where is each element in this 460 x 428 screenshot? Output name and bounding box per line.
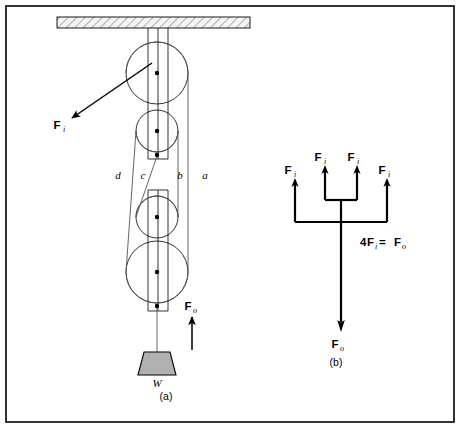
fbd-equation-lhs-subscript: i bbox=[375, 242, 377, 251]
panel-a-caption: (a) bbox=[160, 390, 173, 402]
input-force-symbol: F bbox=[53, 119, 60, 131]
pulley-system-figure: d c b a F i F o W (a) bbox=[0, 0, 460, 428]
hanging-weight bbox=[138, 352, 176, 375]
rope-label-b: b bbox=[177, 169, 183, 181]
fbd-input-force-1-symbol: F bbox=[284, 164, 291, 176]
fbd-input-force-4-symbol: F bbox=[378, 164, 385, 176]
output-force-subscript: o bbox=[193, 306, 197, 315]
fbd-equation-equals: = bbox=[379, 236, 386, 248]
figure-root: d c b a F i F o W (a) bbox=[0, 0, 460, 428]
weight-label: W bbox=[152, 377, 162, 389]
fbd-equation-lhs-symbol: F bbox=[367, 236, 374, 248]
rope-label-c: c bbox=[141, 169, 146, 181]
output-force-symbol: F bbox=[184, 300, 191, 312]
fbd-input-force-1-subscript: i bbox=[294, 170, 296, 179]
fbd-equation-rhs-symbol: F bbox=[394, 236, 401, 248]
panel-b-caption: (b) bbox=[330, 356, 343, 368]
rope-label-d: d bbox=[115, 169, 121, 181]
fbd-input-force-4-subscript: i bbox=[388, 170, 390, 179]
fbd-input-force-2-subscript: i bbox=[324, 157, 326, 166]
fbd-equation-rhs-subscript: o bbox=[402, 242, 406, 251]
input-force-subscript: i bbox=[63, 125, 65, 134]
hatched-ceiling bbox=[57, 17, 250, 28]
fbd-input-force-3-symbol: F bbox=[347, 151, 354, 163]
fbd-output-force-subscript: o bbox=[340, 344, 344, 353]
lower-block-anchor-dot bbox=[155, 304, 159, 308]
fbd-input-force-2-symbol: F bbox=[314, 151, 321, 163]
rope-label-a: a bbox=[202, 169, 208, 181]
fbd-input-force-3-subscript: i bbox=[357, 157, 359, 166]
fbd-output-force-symbol: F bbox=[331, 338, 338, 350]
fbd-equation-lhs-coef: 4 bbox=[360, 236, 367, 248]
